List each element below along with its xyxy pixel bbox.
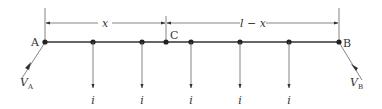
load-2: i: [139, 39, 144, 107]
svg-text:VA: VA: [20, 76, 34, 91]
beam-diagram: x l − x A C B i i i i i: [0, 0, 382, 109]
label-c: C: [170, 29, 178, 42]
reaction-a-subscript: A: [27, 83, 34, 91]
load-4: i: [237, 39, 242, 107]
dimension-l-minus-x: l − x: [167, 17, 338, 30]
load-label: i: [287, 94, 291, 107]
load-5: i: [286, 39, 291, 107]
load-label: i: [189, 94, 193, 107]
load-label: i: [140, 94, 144, 107]
reaction-b: VB: [340, 44, 363, 91]
dimension-x: x: [46, 17, 165, 30]
node-c: [163, 39, 168, 44]
reaction-arrow-a-icon: [22, 44, 44, 78]
reaction-b-subscript: B: [358, 83, 363, 91]
dimension-x-label: x: [102, 17, 109, 30]
load-3: i: [188, 39, 193, 107]
label-a: A: [30, 36, 40, 49]
node-a: [42, 39, 47, 44]
load-label: i: [238, 94, 242, 107]
dimension-l-minus-x-label: l − x: [240, 17, 267, 30]
label-b: B: [343, 37, 351, 50]
load-1: i: [90, 39, 95, 107]
node-b: [336, 39, 341, 44]
reaction-a: VA: [20, 44, 44, 91]
load-label: i: [91, 94, 95, 107]
